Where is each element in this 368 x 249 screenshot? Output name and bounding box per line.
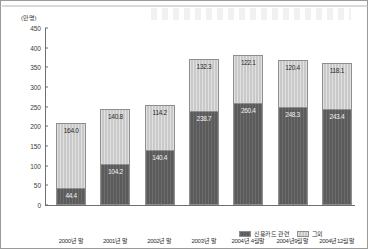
bar-value-label: 164.0 (64, 128, 79, 135)
bar-column: 120.4248.3 (278, 60, 308, 205)
y-axis-tick-label: 400 (30, 44, 45, 51)
x-axis-tick-label: 2002년 말 (147, 236, 172, 245)
chart-legend: 신용카드 관련그외 (239, 229, 323, 238)
bar-segment-credit-card: 243.4 (322, 109, 352, 205)
bar-value-label: 44.4 (65, 193, 76, 200)
bar-value-label: 243.4 (329, 114, 344, 121)
bar-segment-other: 132.3 (189, 59, 219, 111)
bar-value-label: 132.3 (197, 64, 212, 71)
x-axis-tick-mark (71, 203, 72, 206)
bar-segment-other: 122.1 (233, 55, 263, 103)
bar-value-label: 140.4 (152, 155, 167, 162)
legend-swatch (239, 231, 251, 237)
y-axis-tick-label: 250 (30, 103, 45, 110)
x-axis-tick-mark (293, 203, 294, 206)
scan-artifact-band (2, 5, 368, 7)
y-axis-tick-mark (45, 126, 48, 127)
bar-column: 114.2140.4 (145, 105, 175, 205)
y-axis-tick-mark (45, 106, 48, 107)
y-axis-tick-mark (45, 205, 48, 206)
y-axis-tick-mark (45, 185, 48, 186)
chart-frame: (만명) 050100150200250300350400450 164.044… (0, 0, 368, 249)
legend-item: 그외 (297, 229, 323, 238)
bar-value-label: 118.1 (330, 68, 344, 75)
legend-label: 그외 (312, 229, 323, 238)
bar-value-label: 122.1 (241, 60, 256, 67)
x-axis-tick-label: 2003년 말 (192, 236, 217, 245)
bar-segment-credit-card: 104.2 (100, 164, 130, 205)
x-axis-tick-mark (204, 203, 205, 206)
bar-segment-other: 114.2 (145, 105, 175, 150)
x-axis-tick-mark (337, 203, 338, 206)
x-axis-tick-label: 2001년 말 (103, 236, 128, 245)
bar-column: 118.1243.4 (322, 63, 352, 205)
legend-label: 신용카드 관련 (254, 229, 290, 238)
y-axis-tick-mark (45, 165, 48, 166)
x-axis-tick-label: 2004년12월말 (319, 236, 354, 245)
y-axis-tick-label: 350 (30, 64, 45, 71)
y-axis-tick-label: 50 (34, 182, 45, 189)
plot-area: 050100150200250300350400450 164.044.4140… (45, 28, 355, 206)
x-axis-tick-label: 2000년 말 (59, 236, 84, 245)
x-axis-tick-mark (115, 203, 116, 206)
bar-value-label: 248.3 (285, 112, 300, 119)
x-axis-tick-mark (160, 203, 161, 206)
y-axis-tick-label: 100 (30, 162, 45, 169)
y-axis-line (45, 28, 46, 206)
bar-segment-credit-card: 248.3 (278, 107, 308, 205)
scan-ghost-text (151, 8, 351, 20)
bar-segment-other: 120.4 (278, 60, 308, 107)
legend-item: 신용카드 관련 (239, 229, 290, 238)
y-axis-tick-label: 200 (30, 123, 45, 130)
bar-column: 140.8104.2 (100, 109, 130, 205)
y-axis-tick-mark (45, 87, 48, 88)
bar-value-label: 238.7 (197, 116, 212, 123)
bar-column: 122.1260.4 (233, 55, 263, 205)
bar-value-label: 104.2 (108, 169, 123, 176)
x-axis-tick-mark (248, 203, 249, 206)
y-axis-tick-mark (45, 47, 48, 48)
x-axis-line (45, 205, 355, 206)
bar-segment-other: 140.8 (100, 109, 130, 164)
bar-value-label: 114.2 (153, 110, 167, 117)
y-axis-tick-label: 0 (37, 202, 45, 209)
bar-segment-credit-card: 238.7 (189, 111, 219, 205)
bar-value-label: 260.4 (241, 108, 256, 115)
y-axis-tick-label: 150 (30, 143, 45, 150)
y-axis-tick-mark (45, 67, 48, 68)
bar-segment-other: 164.0 (56, 123, 86, 188)
bar-segment-other: 118.1 (322, 63, 352, 109)
y-axis-tick-mark (45, 28, 48, 29)
bar-segment-credit-card: 140.4 (145, 150, 175, 205)
bar-segment-credit-card: 260.4 (233, 103, 263, 205)
y-axis-tick-label: 300 (30, 84, 45, 91)
y-axis-unit-label: (만명) (21, 13, 36, 22)
y-axis-tick-label: 450 (30, 25, 45, 32)
bar-column: 132.3238.7 (189, 59, 219, 205)
bar-value-label: 120.4 (285, 65, 300, 72)
bar-value-label: 140.8 (108, 114, 123, 121)
legend-swatch (297, 231, 309, 237)
bar-column: 164.044.4 (56, 123, 86, 205)
y-axis-tick-mark (45, 146, 48, 147)
